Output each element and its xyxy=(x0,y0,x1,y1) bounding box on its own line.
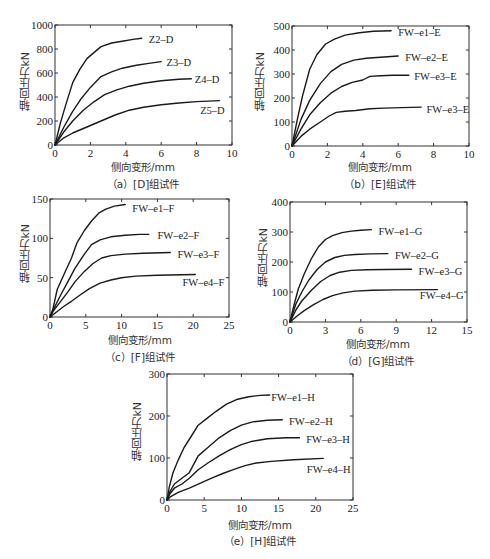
chart-d-x-axis-label: 侧向变形/mm xyxy=(338,336,418,351)
chart-e-y-axis-label: 轴向压力kN xyxy=(130,402,146,461)
x-tick-label: 5 xyxy=(201,502,207,514)
series-label: FW–e3–H xyxy=(306,434,350,445)
x-tick-label: 4 xyxy=(123,147,129,159)
chart-c-caption: （c）[F]组试件 xyxy=(90,349,190,364)
x-tick-label: 0 xyxy=(164,502,170,514)
series-label: FW–e3–F xyxy=(177,249,219,260)
chart-d-y-axis-label: 轴向压力kN xyxy=(256,228,272,287)
series-label: Z4–D xyxy=(195,74,220,85)
x-tick-label: 2 xyxy=(325,148,331,160)
x-tick-label: 20 xyxy=(310,502,322,514)
x-tick-label: 25 xyxy=(348,502,360,514)
series-label: FW–e4–H xyxy=(307,464,351,475)
y-tick-label: 150 xyxy=(32,193,49,205)
x-tick-label: 6 xyxy=(358,324,364,336)
series-curve-FW-e4-H xyxy=(167,458,323,500)
series-curve-FW-e2-H xyxy=(167,420,282,500)
series-label: FW–e1–E xyxy=(398,27,441,38)
y-tick-label: 300 xyxy=(149,368,166,380)
y-tick-label: 1000 xyxy=(31,19,54,31)
series-label: FW–e2–H xyxy=(289,416,333,427)
x-tick-label: 10 xyxy=(227,147,239,159)
x-tick-label: 0 xyxy=(287,324,293,336)
chart-b-y-axis-label: 轴向压力kN xyxy=(253,52,269,111)
chart-e-x-axis-label: 侧向变形/mm xyxy=(220,517,300,532)
series-label: FW–e1–H xyxy=(271,392,315,403)
y-tick-label: 100 xyxy=(149,452,166,464)
x-tick-label: 5 xyxy=(83,319,89,331)
series-label: FW–e3–G xyxy=(419,266,463,277)
y-tick-label: 50 xyxy=(37,272,49,284)
y-tick-label: 200 xyxy=(149,410,166,422)
chart-a-y-axis-label: 轴向压力kN xyxy=(18,52,34,111)
x-tick-label: 12 xyxy=(426,324,437,336)
x-tick-label: 15 xyxy=(273,502,285,514)
series-curve-Z2-D xyxy=(55,38,142,145)
y-tick-label: 600 xyxy=(37,67,54,79)
chart-c-x-axis-label: 侧向变形/mm xyxy=(100,332,180,347)
x-tick-label: 15 xyxy=(152,319,164,331)
y-tick-label: 100 xyxy=(32,232,49,244)
x-tick-label: 0 xyxy=(47,319,53,331)
chart-a-caption: （a）[D]组试件 xyxy=(93,176,193,191)
chart-e-caption: （e）[H]组试件 xyxy=(210,533,310,548)
x-tick-label: 0 xyxy=(289,148,295,160)
chart-c: 0510152025050100150FW–e1–FFW–e2–FFW–e3–F… xyxy=(32,193,236,331)
plot-frame xyxy=(290,202,467,322)
series-curve-FW-e3-F xyxy=(50,253,170,318)
plot-frame xyxy=(55,25,232,145)
series-label: FW–e4–F xyxy=(182,277,224,288)
y-tick-label: 400 xyxy=(274,44,291,56)
charts-svg: 024681002004006008001000Z2–DZ3–DZ4–DZ5–D… xyxy=(0,0,490,559)
series-label: FW–e3–E xyxy=(414,71,457,82)
chart-b-caption: （b）[E]组试件 xyxy=(330,176,430,191)
y-tick-label: 400 xyxy=(37,91,54,103)
y-tick-label: 200 xyxy=(274,92,291,104)
series-label: FW–e3–E xyxy=(427,104,470,115)
series-curve-FW-e1-E xyxy=(292,31,391,146)
y-tick-label: 400 xyxy=(272,196,289,208)
y-tick-label: 0 xyxy=(48,139,54,151)
x-tick-label: 2 xyxy=(88,147,94,159)
series-label: Z2–D xyxy=(149,34,174,45)
y-tick-label: 500 xyxy=(274,20,291,32)
y-tick-label: 0 xyxy=(43,311,49,323)
chart-a: 024681002004006008001000Z2–DZ3–DZ4–DZ5–D xyxy=(31,19,238,159)
chart-d-caption: （d）[G]组试件 xyxy=(328,353,428,368)
series-label: FW–e1–G xyxy=(379,226,423,237)
y-tick-label: 200 xyxy=(272,256,289,268)
series-curve-FW-e2-G xyxy=(290,254,388,322)
y-tick-label: 200 xyxy=(37,115,54,127)
x-tick-label: 10 xyxy=(464,148,476,160)
y-tick-label: 300 xyxy=(272,226,289,238)
series-curve-FW-e3-G xyxy=(290,269,412,322)
chart-c-y-axis-label: 轴向压力kN xyxy=(18,224,34,283)
series-label: FW–e1–F xyxy=(132,203,174,214)
y-tick-label: 800 xyxy=(37,43,54,55)
series-curve-FW-e2-E xyxy=(292,56,398,146)
x-tick-label: 9 xyxy=(393,324,399,336)
y-tick-label: 300 xyxy=(274,68,291,80)
chart-b: 02468100100200300400500FW–e1–EFW–e2–EFW–… xyxy=(274,20,476,160)
y-tick-label: 0 xyxy=(283,316,289,328)
y-tick-label: 0 xyxy=(285,140,291,152)
series-label: FW–e2–E xyxy=(405,52,448,63)
chart-a-x-axis-label: 侧向变形/mm xyxy=(103,159,183,174)
series-curve-FW-e4-G xyxy=(290,290,438,322)
series-label: FW–e4–G xyxy=(420,290,464,301)
x-tick-label: 10 xyxy=(236,502,248,514)
x-tick-label: 25 xyxy=(224,319,236,331)
series-curve-Z5-D xyxy=(55,101,220,145)
series-curve-Z3-D xyxy=(55,62,161,145)
chart-e: 05101520250100200300FW–e1–HFW–e2–HFW–e3–… xyxy=(149,368,360,514)
x-tick-label: 6 xyxy=(158,147,164,159)
x-tick-label: 20 xyxy=(188,319,200,331)
y-tick-label: 100 xyxy=(274,116,291,128)
series-curve-FW-e4-F xyxy=(50,275,195,318)
chart-b-x-axis-label: 侧向变形/mm xyxy=(340,159,420,174)
y-tick-label: 0 xyxy=(160,494,166,506)
x-tick-label: 3 xyxy=(323,324,329,336)
y-tick-label: 100 xyxy=(272,286,289,298)
x-tick-label: 8 xyxy=(194,147,200,159)
series-label: FW–e2–F xyxy=(157,230,199,241)
